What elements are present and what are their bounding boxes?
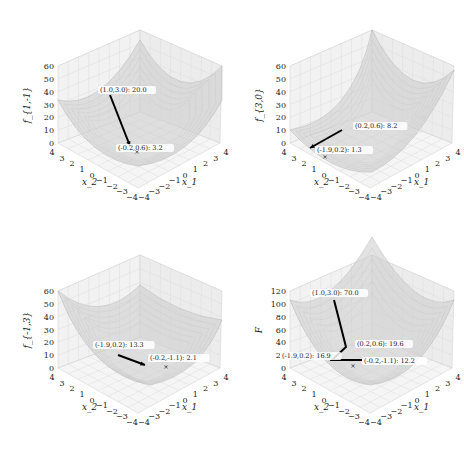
z-tick-label: 120 <box>271 287 286 296</box>
point-annotation: (0.2,0.6): 8.2 <box>355 122 397 130</box>
point-annotation: (-1.9,0.2): 16.9 <box>282 352 331 360</box>
x2-tick-label: 1 <box>311 390 316 399</box>
x1-tick-label: 2 <box>203 159 208 168</box>
x2-tick-label: −4 <box>126 193 138 202</box>
x2-axis-label: x_2 <box>82 402 98 413</box>
z-tick-label: 20 <box>44 113 54 122</box>
point-annotation: (1.0,3.0): 70.0 <box>312 289 359 297</box>
x1-tick-label: 2 <box>203 384 208 393</box>
z-tick-label: 60 <box>276 326 286 335</box>
z-tick-label: 0 <box>49 364 54 373</box>
x1-tick-label: 4 <box>223 373 228 382</box>
z-tick-label: 60 <box>44 287 54 296</box>
x2-tick-label: −4 <box>358 418 370 427</box>
minimum-marker-icon: × <box>322 153 327 161</box>
z-axis-label: f_{-1,3} <box>22 312 33 350</box>
x2-tick-label: 1 <box>79 165 84 174</box>
z-tick-label: 40 <box>276 88 286 97</box>
x2-tick-label: 2 <box>301 384 306 393</box>
z-tick-label: 10 <box>44 126 54 135</box>
x1-tick-label: 4 <box>455 148 460 157</box>
x1-tick-label: 3 <box>213 154 218 163</box>
z-tick-label: 40 <box>44 313 54 322</box>
z-tick-label: 60 <box>276 62 286 71</box>
x2-tick-label: 3 <box>291 154 296 163</box>
point-annotation: (-0.2,-1.1): 12.2 <box>364 357 415 365</box>
z-tick-label: 20 <box>276 113 286 122</box>
x1-tick-label: 4 <box>223 148 228 157</box>
x2-tick-label: 4 <box>281 148 286 157</box>
x2-tick-label: 4 <box>49 373 54 382</box>
x1-tick-label: 1 <box>193 165 198 174</box>
z-axis-label: f_{1,-1} <box>22 87 33 125</box>
surface-plot-4: 02040608010012043210−1−2−3−4−4−3−2−10123… <box>232 225 464 450</box>
x2-tick-label: 1 <box>311 165 316 174</box>
x1-tick-label: 3 <box>445 379 450 388</box>
x1-tick-label: 4 <box>455 373 460 382</box>
x1-tick-label: 3 <box>445 154 450 163</box>
x2-axis-label: x_2 <box>314 402 330 413</box>
minimum-marker-icon: × <box>134 148 139 156</box>
x1-tick-label: 1 <box>193 390 198 399</box>
x1-tick-label: 1 <box>425 390 430 399</box>
z-tick-label: 10 <box>44 351 54 360</box>
x2-tick-label: 3 <box>291 379 296 388</box>
z-tick-label: 30 <box>44 326 54 335</box>
surface-plot-1: 010203040506043210−1−2−3−4−4−3−2−101234f… <box>0 0 232 225</box>
x2-tick-label: −4 <box>358 193 370 202</box>
x1-axis-label: x_1 <box>414 177 429 188</box>
point-annotation: (1.0,3.0): 20.0 <box>100 86 147 94</box>
x1-tick-label: −1 <box>401 176 413 185</box>
x2-tick-label: 4 <box>281 373 286 382</box>
z-tick-label: 20 <box>44 338 54 347</box>
point-annotation: (0.2,0.6): 19.6 <box>357 340 404 348</box>
point-annotation: (-0.2,0.6): 3.2 <box>118 144 163 152</box>
z-tick-label: 50 <box>44 75 54 84</box>
x2-tick-label: 4 <box>49 148 54 157</box>
z-tick-label: 60 <box>44 62 54 71</box>
minimum-marker-icon: × <box>163 363 168 371</box>
z-tick-label: 50 <box>276 75 286 84</box>
z-tick-label: 10 <box>276 126 286 135</box>
x2-axis-label: x_2 <box>314 177 330 188</box>
x1-tick-label: −1 <box>401 401 413 410</box>
x2-tick-label: −4 <box>126 418 138 427</box>
z-tick-label: 0 <box>49 139 54 148</box>
z-tick-label: 40 <box>276 338 286 347</box>
point-annotation: (-0.2,-1.1): 2.1 <box>150 354 197 362</box>
minimum-marker-icon: × <box>350 362 355 370</box>
x1-tick-label: 2 <box>435 159 440 168</box>
z-tick-label: 40 <box>44 88 54 97</box>
surface-plot-2: 010203040506043210−1−2−3−4−4−3−2−101234f… <box>232 0 464 225</box>
x2-axis-label: x_2 <box>82 177 98 188</box>
x2-tick-label: 2 <box>69 159 74 168</box>
x1-tick-label: −1 <box>169 176 181 185</box>
z-tick-label: 80 <box>276 313 286 322</box>
x2-tick-label: 3 <box>59 379 64 388</box>
x1-axis-label: x_1 <box>182 402 197 413</box>
x1-tick-label: −1 <box>169 401 181 410</box>
x1-tick-label: 1 <box>425 165 430 174</box>
z-axis-label: F <box>254 326 264 334</box>
x2-tick-label: 1 <box>79 390 84 399</box>
z-tick-label: 0 <box>281 364 286 373</box>
x2-tick-label: 2 <box>69 384 74 393</box>
x1-axis-label: x_1 <box>182 177 197 188</box>
x1-axis-label: x_1 <box>414 402 429 413</box>
x2-tick-label: 3 <box>59 154 64 163</box>
z-axis-label: f_{3,0} <box>254 88 265 123</box>
x2-tick-label: 2 <box>301 159 306 168</box>
z-tick-label: 30 <box>44 101 54 110</box>
point-annotation: (-1.9,0.2): 13.3 <box>95 341 144 349</box>
x1-tick-label: 3 <box>213 379 218 388</box>
z-tick-label: 50 <box>44 300 54 309</box>
surface-plot-3: 010203040506043210−1−2−3−4−4−3−2−101234f… <box>0 225 232 450</box>
x1-tick-label: 2 <box>435 384 440 393</box>
z-tick-label: 30 <box>276 101 286 110</box>
z-tick-label: 0 <box>281 139 286 148</box>
z-tick-label: 100 <box>271 300 286 309</box>
